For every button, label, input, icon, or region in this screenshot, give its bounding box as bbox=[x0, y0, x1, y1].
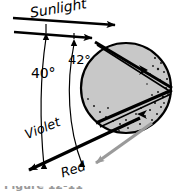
angle-arc-40 bbox=[41, 38, 46, 166]
rainbow-raindrop-diagram: Sunlight 40° 42° Violet Red Figure 12-11 bbox=[0, 0, 187, 196]
label-angle-42: 42° bbox=[68, 53, 91, 66]
arc-42-top-arrow bbox=[71, 39, 77, 46]
sunlight-ray-lower bbox=[14, 32, 92, 38]
label-angle-40: 40° bbox=[31, 66, 56, 80]
incident-sunlight-rays bbox=[13, 18, 115, 38]
figure-caption-text: Figure 12-11 bbox=[4, 186, 83, 192]
diagram-canvas bbox=[0, 0, 187, 196]
figure-caption-clipped: Figure 12-11 bbox=[0, 186, 187, 196]
sunlight-ray-upper bbox=[13, 18, 115, 25]
